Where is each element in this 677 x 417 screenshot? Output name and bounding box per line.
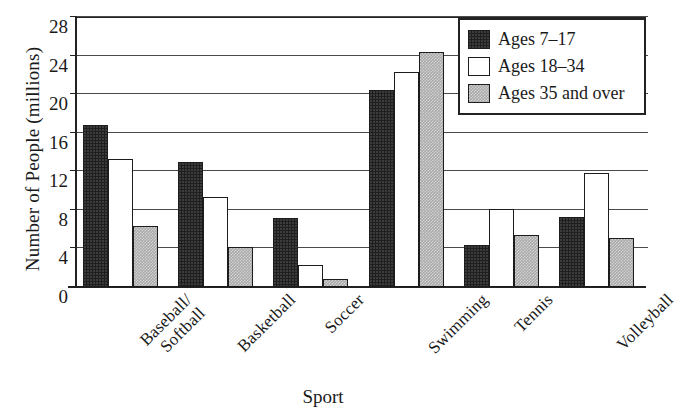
bar <box>464 245 489 287</box>
legend-item-label: Ages 18–34 <box>498 56 585 77</box>
bar <box>489 209 514 287</box>
legend-item-label: Ages 35 and over <box>498 83 624 104</box>
bar <box>108 159 133 287</box>
bar <box>514 235 539 287</box>
bar-group <box>369 17 444 287</box>
bar <box>369 90 394 287</box>
x-axis-tick-label: Volleyball <box>613 290 677 354</box>
bar <box>203 197 228 287</box>
x-axis-tick-labels: Baseball/ SoftballBasketballSoccerSwimmi… <box>75 290 646 380</box>
x-axis-tick-label: Basketball <box>233 290 299 356</box>
bar <box>228 247 253 287</box>
legend-swatch-icon <box>468 57 490 76</box>
legend-item: Ages 35 and over <box>468 80 638 107</box>
bar <box>133 226 158 287</box>
bar-group <box>273 17 348 287</box>
bar <box>178 162 203 287</box>
bar <box>83 125 108 287</box>
bar-group <box>178 17 253 287</box>
legend-item: Ages 18–34 <box>468 53 638 80</box>
x-axis-tick-label: Baseball/ Softball <box>136 290 209 363</box>
x-axis-title: Sport <box>0 386 646 408</box>
legend-item: Ages 7–17 <box>468 26 638 53</box>
legend-item-label: Ages 7–17 <box>498 29 576 50</box>
bar <box>323 279 348 287</box>
bar <box>419 52 444 287</box>
legend-swatch-icon <box>468 84 490 103</box>
x-axis-tick-label: Swimming <box>424 290 491 357</box>
bar <box>273 218 298 287</box>
y-axis-tick-labels: 0481216202428 <box>28 17 68 287</box>
bar <box>609 238 634 287</box>
x-axis-tick-label: Tennis <box>511 290 557 336</box>
legend-swatch-icon <box>468 30 490 49</box>
bar-group <box>83 17 158 287</box>
bar <box>298 265 323 287</box>
x-axis-tick-label: Soccer <box>321 290 368 337</box>
bar <box>584 173 609 287</box>
bar <box>394 72 419 287</box>
chart-legend: Ages 7–17Ages 18–34Ages 35 and over <box>458 18 646 115</box>
bar <box>559 217 584 287</box>
